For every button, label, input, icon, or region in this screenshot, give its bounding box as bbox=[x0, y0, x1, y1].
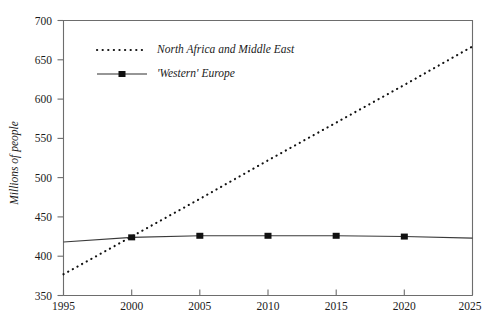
y-tick-label-400: 400 bbox=[35, 250, 53, 262]
y-tick-label-350: 350 bbox=[35, 290, 53, 302]
y-axis-ticks bbox=[58, 21, 64, 296]
plot-border bbox=[64, 21, 473, 296]
plot-frame bbox=[64, 21, 473, 296]
legend-swatch-square-marker-icon bbox=[119, 71, 126, 77]
legend-label-north-africa-and-middle-east: North Africa and Middle East bbox=[156, 43, 295, 56]
x-tick-label-2020: 2020 bbox=[393, 300, 416, 312]
x-axis-tick-labels: 1995 2000 2005 2010 2015 2020 2025 bbox=[52, 300, 482, 312]
legend-label-western-europe: 'Western' Europe bbox=[157, 67, 235, 80]
x-tick-label-2005: 2005 bbox=[188, 300, 211, 312]
data-point-marker bbox=[128, 234, 135, 240]
legend: North Africa and Middle East 'Western' E… bbox=[97, 43, 295, 80]
data-point-marker bbox=[401, 234, 408, 240]
x-tick-label-2015: 2015 bbox=[325, 300, 348, 312]
data-point-marker bbox=[196, 233, 203, 239]
y-tick-label-450: 450 bbox=[35, 211, 53, 223]
line-chart: 700 650 600 550 500 450 400 350 1995 200… bbox=[0, 0, 496, 329]
chart-figure: 700 650 600 550 500 450 400 350 1995 200… bbox=[0, 0, 496, 329]
y-tick-label-500: 500 bbox=[35, 172, 53, 184]
x-tick-label-2025: 2025 bbox=[459, 300, 482, 312]
y-axis-tick-labels: 700 650 600 550 500 450 400 350 bbox=[35, 15, 53, 302]
y-axis-title: Millions of people bbox=[8, 121, 21, 206]
data-point-marker bbox=[333, 233, 340, 239]
data-point-marker bbox=[265, 233, 272, 239]
series-north-africa-and-middle-east-line bbox=[64, 46, 473, 274]
x-tick-label-2010: 2010 bbox=[257, 300, 280, 312]
x-tick-label-2000: 2000 bbox=[120, 300, 143, 312]
series-group bbox=[64, 46, 473, 274]
y-tick-label-650: 650 bbox=[35, 54, 53, 66]
x-axis-ticks bbox=[64, 290, 473, 296]
x-tick-label-1995: 1995 bbox=[52, 300, 75, 312]
y-tick-label-600: 600 bbox=[35, 93, 53, 105]
y-tick-label-700: 700 bbox=[35, 15, 53, 27]
y-tick-label-550: 550 bbox=[35, 132, 53, 144]
